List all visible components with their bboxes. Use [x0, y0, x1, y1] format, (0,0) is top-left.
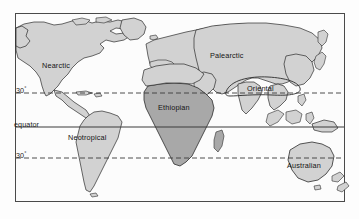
- latitude-label-south-30-value: 30: [16, 151, 24, 160]
- landmass-tasmania: [314, 185, 321, 190]
- landmass-philippines: [298, 94, 306, 106]
- figure-world-zoogeographic-regions: 30° equator 30° Nearctic Palearctic Orie…: [0, 0, 359, 219]
- region-label-oriental: Oriental: [247, 85, 274, 92]
- region-label-palearctic: Palearctic: [210, 52, 244, 59]
- region-label-nearctic: Nearctic: [42, 62, 70, 69]
- landmass-tierra-del-fuego: [90, 193, 98, 197]
- latitude-label-south-30: 30°: [16, 151, 26, 160]
- degree-symbol-north: °: [24, 85, 26, 91]
- landmass-sulawesi: [306, 112, 314, 124]
- landmass-new-zealand-north: [332, 172, 344, 182]
- landmass-sumatra: [266, 110, 284, 126]
- landmass-south-america: [76, 111, 122, 192]
- landmass-madagascar: [214, 130, 224, 152]
- landmass-caribbean-2: [94, 93, 102, 97]
- region-label-neotropical: Neotropical: [68, 134, 107, 141]
- latitude-label-north-30-value: 30: [16, 86, 24, 95]
- latitude-label-equator: equator: [14, 121, 39, 128]
- latitude-label-north-30: 30°: [16, 86, 26, 95]
- landmass-new-zealand-south: [337, 182, 349, 192]
- landmass-north-africa: [142, 64, 204, 86]
- degree-symbol-south: °: [24, 150, 26, 156]
- landmass-africa-ethiopian: [144, 83, 214, 166]
- landmass-borneo: [286, 110, 302, 124]
- region-label-ethiopian: Ethiopian: [158, 104, 190, 111]
- landmass-north-america: [16, 20, 130, 96]
- landmass-kamchatka: [318, 30, 328, 46]
- region-label-australian: Australian: [287, 162, 321, 169]
- landmass-new-guinea: [312, 120, 338, 132]
- latitude-label-equator-value: equator: [14, 120, 39, 129]
